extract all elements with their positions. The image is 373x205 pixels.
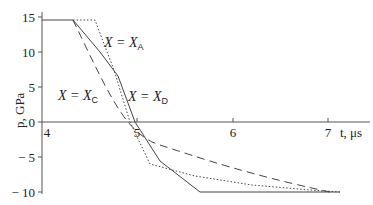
x-tick-7: 7: [325, 125, 332, 140]
x-axis-title: t, μs: [340, 125, 362, 140]
y-tick-neg5: − 5: [18, 150, 35, 165]
pressure-time-chart: 15 10 5 0 − 5 − 10 4 5 6 7 p, GPa t, μs …: [0, 0, 373, 205]
y-ticks: [38, 17, 42, 192]
y-tick-10: 10: [22, 45, 35, 60]
x-tick-6: 6: [230, 125, 237, 140]
x-ticks: [137, 118, 328, 122]
y-tick-neg10: − 10: [11, 185, 35, 200]
x-tick-labels: 4 5 6 7: [44, 125, 332, 140]
y-tick-15: 15: [22, 10, 35, 25]
curve-xd-solid: [42, 20, 340, 192]
x-tick-4: 4: [44, 125, 51, 140]
label-xc: X = XC: [57, 88, 99, 105]
label-xa: X = XA: [103, 35, 144, 52]
y-axis-title: p, GPa: [12, 92, 27, 128]
y-tick-0: 0: [29, 115, 36, 130]
y-tick-5: 5: [29, 80, 36, 95]
label-xd: X = XD: [127, 89, 169, 106]
